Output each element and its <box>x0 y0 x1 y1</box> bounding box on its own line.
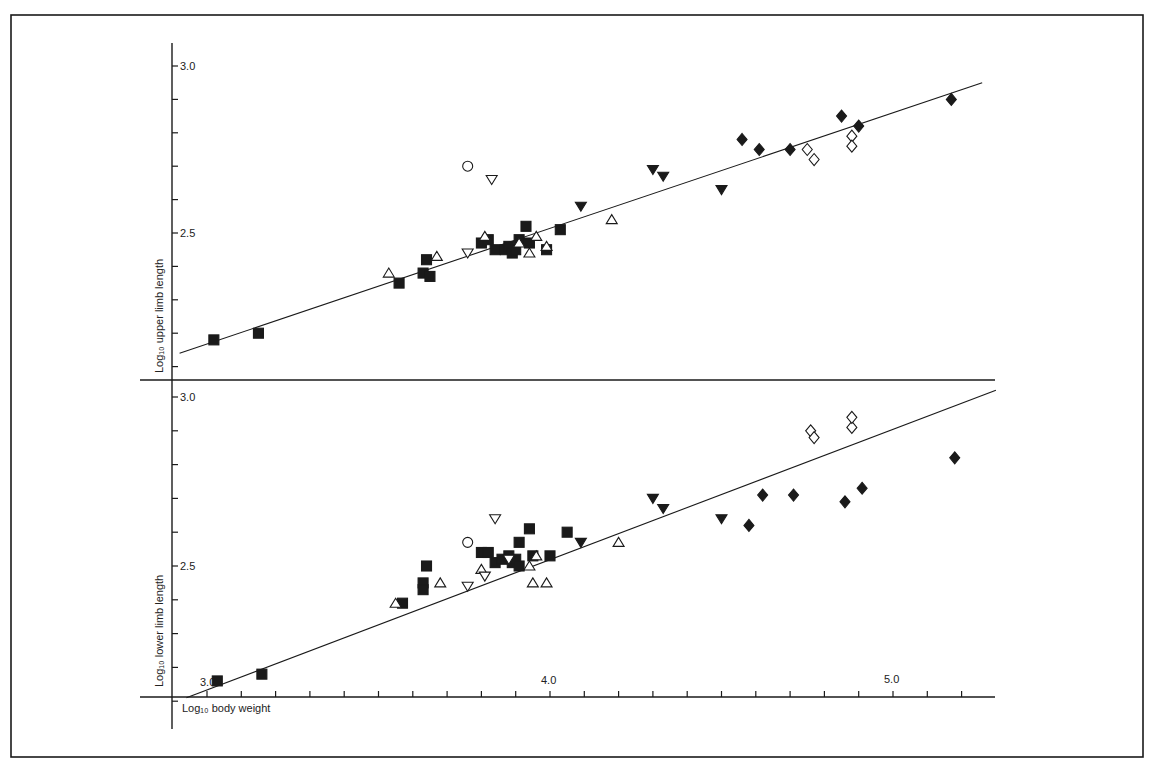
filled-square-marker <box>483 547 493 557</box>
x-axis-label: Log₁₀ body weight <box>182 702 270 714</box>
open-triangle-marker <box>531 231 542 240</box>
open-triangle-marker <box>613 537 624 546</box>
open-triangle-marker <box>524 248 535 257</box>
lower-y-axis-label: Log₁₀ lower limb length <box>153 575 165 687</box>
open-diamond-marker <box>802 144 812 156</box>
open-inverted-triangle-marker <box>479 572 490 581</box>
upper-limb-plot <box>180 83 983 354</box>
filled-diamond-marker <box>754 144 764 156</box>
filled-square-marker <box>545 551 555 561</box>
lower-ytick-3.0: 3.0 <box>180 391 195 403</box>
open-triangle-marker <box>541 578 552 587</box>
filled-square-marker <box>524 524 534 534</box>
filled-square-marker <box>253 328 263 338</box>
filled-square-marker <box>257 669 267 679</box>
filled-square-marker <box>555 225 565 235</box>
lower-ytick-2.5: 2.5 <box>180 560 195 572</box>
filled-inverted-triangle-marker <box>658 505 669 514</box>
upper-ytick-3.0: 3.0 <box>180 60 195 72</box>
filled-diamond-marker <box>950 452 960 464</box>
filled-square-marker <box>521 221 531 231</box>
upper-y-ticks <box>172 66 178 367</box>
open-circle-marker <box>463 161 473 171</box>
open-triangle-marker <box>431 251 442 260</box>
filled-inverted-triangle-marker <box>647 166 658 175</box>
lower-y-ticks <box>172 397 178 701</box>
filled-square-marker <box>422 255 432 265</box>
open-circle-marker <box>463 537 473 547</box>
filled-diamond-marker <box>837 110 847 122</box>
filled-diamond-marker <box>946 93 956 105</box>
filled-square-marker <box>209 335 219 345</box>
filled-inverted-triangle-marker <box>716 515 727 524</box>
open-triangle-marker <box>435 578 446 587</box>
open-diamond-marker <box>847 411 857 423</box>
filled-square-marker <box>490 245 500 255</box>
open-inverted-triangle-marker <box>490 515 501 524</box>
upper-y-axis-label: Log₁₀ upper limb length <box>153 259 165 373</box>
filled-square-marker <box>514 561 524 571</box>
filled-square-marker <box>422 561 432 571</box>
filled-diamond-marker <box>744 519 754 531</box>
open-inverted-triangle-marker <box>486 176 497 185</box>
filled-diamond-marker <box>785 144 795 156</box>
open-triangle-marker <box>383 268 394 277</box>
xtick-4.0: 4.0 <box>541 674 556 686</box>
xtick-5.0: 5.0 <box>884 673 899 685</box>
filled-diamond-marker <box>737 133 747 145</box>
filled-diamond-marker <box>789 489 799 501</box>
open-diamond-marker <box>809 154 819 166</box>
open-diamond-marker <box>847 140 857 152</box>
open-triangle-marker <box>527 578 538 587</box>
filled-square-marker <box>562 527 572 537</box>
figure: 3.0 2.5 3.0 2.5 3.0 4.0 5.0 Log₁₀ upper … <box>0 0 1151 758</box>
figure-frame <box>11 15 1143 757</box>
x-ticks <box>207 691 962 697</box>
filled-square-marker <box>425 271 435 281</box>
filled-diamond-marker <box>854 120 864 132</box>
open-triangle-marker <box>606 215 617 224</box>
filled-diamond-marker <box>758 489 768 501</box>
filled-inverted-triangle-marker <box>658 172 669 181</box>
lower-limb-plot <box>186 390 995 698</box>
filled-inverted-triangle-marker <box>575 202 586 211</box>
filled-square-marker <box>418 585 428 595</box>
filled-diamond-marker <box>840 496 850 508</box>
filled-square-marker <box>212 676 222 686</box>
upper-ytick-2.5: 2.5 <box>180 227 195 239</box>
filled-inverted-triangle-marker <box>647 494 658 503</box>
filled-inverted-triangle-marker <box>716 186 727 195</box>
filled-square-marker <box>514 537 524 547</box>
open-inverted-triangle-marker <box>462 249 473 258</box>
filled-diamond-marker <box>857 482 867 494</box>
regression-line <box>186 390 995 698</box>
filled-square-marker <box>394 278 404 288</box>
